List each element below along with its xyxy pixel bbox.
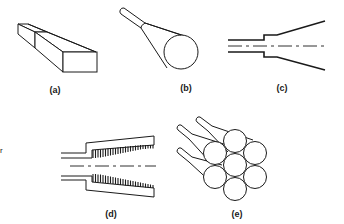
panel-d-label: (d) <box>105 209 117 219</box>
panel-b-label: (b) <box>180 83 192 93</box>
figure-canvas: (a) (b) (c) r <box>0 0 344 224</box>
edge-mark: r <box>0 146 3 155</box>
panel-c-label: (c) <box>277 83 288 93</box>
panel-a-drawing <box>18 24 97 72</box>
panel-b-drawing <box>120 8 198 69</box>
panel-e-drawing <box>177 117 266 201</box>
panel-e-label: (e) <box>232 209 243 219</box>
panel-d-drawing <box>61 136 156 197</box>
panel-a-label: (a) <box>50 85 61 95</box>
panel-c-drawing <box>228 21 328 70</box>
